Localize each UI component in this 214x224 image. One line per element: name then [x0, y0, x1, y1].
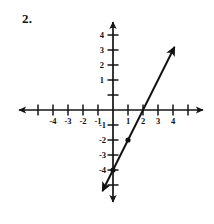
y-tick-label: 2: [100, 60, 104, 70]
y-tick-label: -1: [99, 120, 106, 130]
y-tick-label: 1: [100, 75, 104, 85]
y-tick-label: 3: [100, 45, 104, 55]
y-tick-label: -4: [99, 165, 107, 175]
y-axis-tick-labels: 4 3 2 1 -1 -2 -3 -4: [99, 30, 107, 175]
data-point-marker: [110, 167, 115, 172]
x-tick-label: -3: [64, 116, 71, 126]
x-tick-label: 1: [126, 116, 130, 126]
data-point-marker: [125, 137, 130, 142]
y-tick-label: 4: [100, 30, 105, 40]
x-tick-label: 3: [156, 116, 160, 126]
y-tick-label: -2: [99, 135, 106, 145]
x-tick-label: 2: [141, 116, 145, 126]
worksheet-page: 2.: [0, 0, 214, 224]
x-tick-label: -4: [49, 116, 57, 126]
x-tick-label: -2: [79, 116, 86, 126]
y-tick-label: -3: [99, 150, 106, 160]
x-tick-label: 4: [171, 116, 176, 126]
coordinate-plane-graph: -4 -3 -2 -1 1 2 3 4 4 3 2 1 -1 -2 -3 -4: [0, 0, 214, 224]
graph-svg: -4 -3 -2 -1 1 2 3 4 4 3 2 1 -1 -2 -3 -4: [0, 0, 214, 224]
